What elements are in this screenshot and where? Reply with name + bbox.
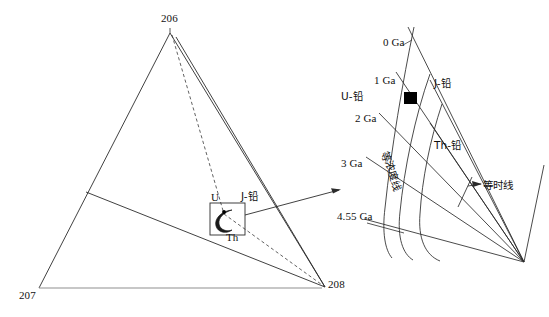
triangle-edge-207-206: [39, 33, 170, 288]
sample-point-dot: [222, 210, 226, 214]
triangle-edge-206-208-inner: [176, 37, 325, 287]
j-lead-ray: [430, 80, 524, 262]
age-ray-0ga: [408, 27, 524, 262]
fan-lower-boundary-ray: [524, 165, 544, 262]
sample-marker-square: [404, 92, 417, 104]
ternary-label-u: U: [211, 192, 219, 204]
ternary-triangle: [39, 28, 325, 288]
inset-age-label-1ga: 1 Ga: [374, 75, 395, 87]
u-dashed-line: [172, 35, 224, 214]
triangle-edge-206-208-outer: [170, 33, 325, 287]
inset-label-j-lead: J-铅: [434, 78, 451, 89]
inset-label-u-lead: U-铅: [341, 91, 363, 102]
sample-to-208-dashed-line: [224, 214, 325, 287]
inset-age-label-3ga: 3 Ga: [341, 158, 362, 170]
inset-label-isochron: 等时线: [483, 180, 513, 191]
th-growth-line: [86, 192, 325, 287]
ternary-label-j-lead: J-铅: [241, 191, 258, 202]
diagram-canvas: [0, 0, 549, 317]
inset-age-label-0ga: 0 Ga: [383, 37, 404, 49]
ternary-label-th: Th: [226, 232, 238, 244]
vertex-label-206: 206: [161, 13, 178, 25]
connector-arrowhead-upper: [331, 188, 341, 193]
inset-age-label-2ga: 2 Ga: [355, 113, 376, 125]
vertex-label-207: 207: [19, 290, 36, 302]
age-ray-455ga: [364, 219, 524, 262]
connector-arrow-upper: [245, 190, 339, 215]
figure-root: 206 207 208 U Th J-铅 0 Ga 1 Ga 2 Ga 3 Ga…: [0, 0, 549, 317]
isoconcentration-arc-3: [420, 104, 442, 261]
isochron-tick: [458, 177, 472, 207]
vertex-label-208: 208: [328, 279, 345, 291]
inset-age-label-455ga: 4.55 Ga: [337, 211, 373, 223]
inset-label-th-lead: Th-铅: [434, 140, 461, 151]
isochron-pointer-arrowhead: [472, 181, 482, 187]
